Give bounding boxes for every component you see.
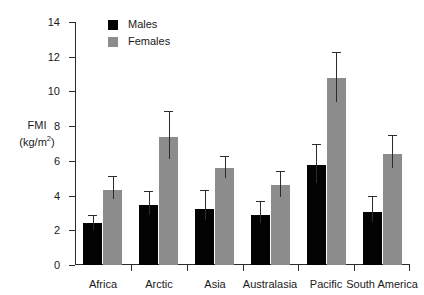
y-axis-title-main: FMI — [28, 119, 47, 131]
errorbar-asia-males-cap — [200, 190, 209, 191]
y-tick-label-0: 0 — [54, 259, 60, 271]
x-tick-label-africa: Africa — [89, 278, 117, 290]
y-tick-8: 8 — [69, 126, 75, 127]
errorbar-south-america-females-line — [392, 135, 393, 168]
errorbar-pacific-females-line — [336, 52, 337, 101]
errorbar-arctic-males-line — [149, 191, 150, 214]
errorbar-south-america-males-cap — [368, 196, 377, 197]
errorbar-australasia-males-line — [260, 201, 261, 224]
errorbar-asia-females-line — [225, 156, 226, 179]
y-tick-10: 10 — [69, 91, 75, 92]
errorbar-asia-males-line — [205, 190, 206, 220]
errorbar-pacific-females-cap — [332, 52, 341, 53]
chart-legend: Males Females — [108, 16, 170, 50]
legend-item-males: Males — [108, 16, 170, 33]
x-tick-label-arctic: Arctic — [145, 278, 173, 290]
y-tick-label-2: 2 — [54, 224, 60, 236]
plot-area: 02468101214 AfricaArcticAsiaAustralasiaP… — [75, 22, 410, 265]
legend-swatch-females-icon — [108, 37, 118, 47]
errorbar-pacific-males-cap — [312, 144, 321, 145]
bar-pacific-females — [327, 78, 346, 265]
errorbar-south-america-females-cap — [388, 135, 397, 136]
y-tick-14: 14 — [69, 22, 75, 23]
errorbar-pacific-males-line — [316, 144, 317, 184]
x-separator-2 — [187, 265, 188, 271]
chart-figure: FMI (kg/m2) 02468101214 AfricaArcticAsia… — [0, 0, 424, 295]
y-tick-label-14: 14 — [48, 16, 60, 28]
x-tick-label-australasia: Australasia — [243, 278, 297, 290]
legend-label-males: Males — [128, 19, 157, 30]
errorbar-africa-males-cap — [88, 215, 97, 216]
bar-asia-females — [215, 168, 234, 265]
y-tick-label-6: 6 — [54, 155, 60, 167]
y-tick-4: 4 — [69, 196, 75, 197]
x-tick-label-asia: Asia — [204, 278, 225, 290]
errorbar-australasia-females-line — [280, 171, 281, 197]
y-tick-0: 0 — [69, 265, 75, 266]
x-tick-label-south-america: South America — [346, 278, 418, 290]
y-tick-12: 12 — [69, 57, 75, 58]
y-axis-line — [75, 22, 76, 265]
bar-africa-females — [103, 190, 122, 266]
errorbar-africa-males-line — [93, 215, 94, 231]
errorbar-arctic-males-cap — [144, 191, 153, 192]
x-separator-3 — [243, 265, 244, 271]
errorbar-south-america-males-line — [372, 196, 373, 222]
legend-item-females: Females — [108, 33, 170, 50]
errorbar-africa-females-line — [113, 176, 114, 199]
x-separator-end — [409, 265, 410, 271]
y-tick-2: 2 — [69, 230, 75, 231]
y-tick-label-8: 8 — [54, 120, 60, 132]
errorbar-arctic-females-cap — [164, 111, 173, 112]
y-tick-6: 6 — [69, 161, 75, 162]
x-separator-5 — [354, 265, 355, 271]
errorbar-arctic-females-line — [169, 111, 170, 159]
errorbar-africa-females-cap — [108, 176, 117, 177]
y-tick-label-10: 10 — [48, 85, 60, 97]
bar-south-america-females — [383, 154, 402, 265]
x-separator-1 — [131, 265, 132, 271]
y-tick-label-12: 12 — [48, 51, 60, 63]
x-tick-label-pacific: Pacific — [310, 278, 342, 290]
errorbar-australasia-females-cap — [276, 171, 285, 172]
errorbar-australasia-males-cap — [256, 201, 265, 202]
legend-label-females: Females — [128, 36, 170, 47]
errorbar-asia-females-cap — [220, 156, 229, 157]
y-axis-title-unit: (kg/m2) — [8, 132, 66, 149]
y-tick-label-4: 4 — [54, 190, 60, 202]
x-separator-4 — [298, 265, 299, 271]
legend-swatch-males-icon — [108, 20, 118, 30]
